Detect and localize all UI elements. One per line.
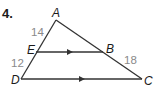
triangle-figure: 4. A E D B C 14 12 18: [0, 0, 156, 93]
parallel-arrow-icon: [67, 49, 73, 55]
length-ae: 14: [31, 27, 44, 39]
length-ed: 12: [11, 58, 24, 70]
vertex-label-a: A: [52, 7, 60, 19]
parallel-arrow-icon: [79, 76, 85, 82]
vertex-label-e: E: [27, 44, 35, 56]
vertex-label-b: B: [106, 43, 114, 55]
vertex-label-c: C: [144, 75, 153, 87]
vertex-label-d: D: [11, 74, 20, 86]
segment-ac: [56, 20, 142, 79]
triangle-diagram: [0, 0, 156, 93]
length-bc: 18: [124, 55, 137, 67]
problem-number: 4.: [2, 7, 13, 20]
